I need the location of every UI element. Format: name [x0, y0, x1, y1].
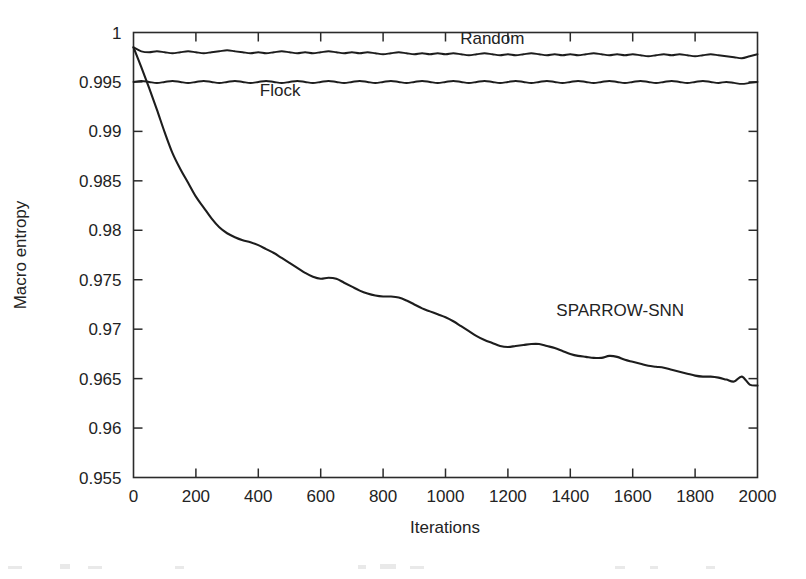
series-label-random: Random [460, 29, 524, 48]
y-tick-label: 0.955 [79, 469, 122, 488]
y-tick-label: 0.97 [88, 320, 121, 339]
chart-figure: 0.9550.960.9650.970.9750.980.9850.990.99… [0, 0, 806, 579]
x-tick-label: 400 [244, 487, 272, 506]
x-tick-label: 1600 [614, 487, 652, 506]
y-tick-label: 0.995 [79, 73, 122, 92]
y-tick-label: 0.985 [79, 172, 122, 191]
y-tick-label: 0.96 [88, 419, 121, 438]
macro-entropy-line-chart: 0.9550.960.9650.970.9750.980.9850.990.99… [0, 0, 806, 579]
x-tick-label: 1400 [551, 487, 589, 506]
x-tick-label: 800 [369, 487, 397, 506]
series-label-sparrow-snn: SPARROW-SNN [556, 301, 684, 320]
x-axis-title: Iterations [410, 518, 480, 537]
x-tick-label: 1000 [427, 487, 465, 506]
x-tick-label: 600 [307, 487, 335, 506]
series-label-flock: Flock [260, 81, 301, 100]
y-tick-label: 0.965 [79, 370, 122, 389]
x-tick-label: 0 [129, 487, 138, 506]
y-axis-title: Macro entropy [11, 200, 30, 309]
x-tick-label: 200 [182, 487, 210, 506]
x-tick-label: 1800 [676, 487, 714, 506]
y-tick-label: 0.98 [88, 221, 121, 240]
x-tick-label: 2000 [739, 487, 777, 506]
y-tick-label: 0.975 [79, 271, 122, 290]
x-tick-label: 1200 [489, 487, 527, 506]
y-tick-label: 1 [112, 24, 121, 43]
y-tick-label: 0.99 [88, 122, 121, 141]
